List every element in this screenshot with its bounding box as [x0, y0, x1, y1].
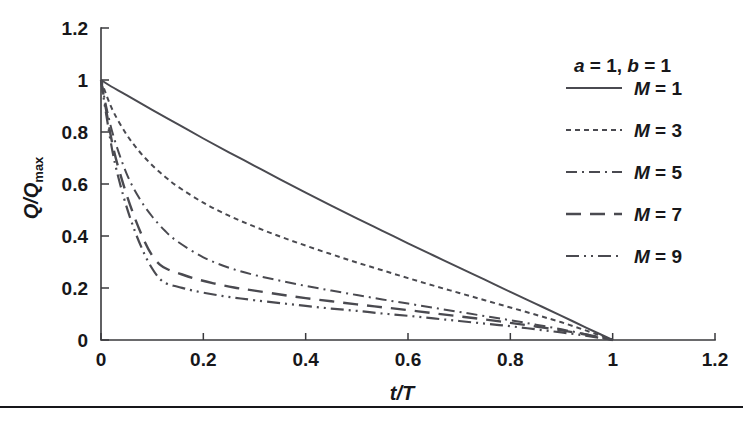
y-axis-title: Q/Qmax [20, 156, 46, 219]
legend-label-m=9: M = 9 [634, 246, 682, 267]
x-tick-label-2: 0.4 [292, 349, 319, 370]
y-tick-label-2: 0.4 [62, 226, 89, 247]
x-tick-label-4: 0.8 [497, 349, 523, 370]
y-tick-label-1: 0.2 [62, 278, 88, 299]
x-tick-label-3: 0.6 [395, 349, 421, 370]
y-axis-title-group: Q/Qmax [20, 156, 46, 219]
chart-canvas: 00.20.40.60.811.2 00.20.40.60.811.2 t/TQ… [0, 0, 743, 422]
series-line-m=7 [101, 80, 613, 340]
series-line-m=1 [101, 80, 613, 340]
y-tick-label-5: 1 [77, 70, 88, 91]
x-tick-label-5: 1 [607, 349, 618, 370]
x-tick-label-0: 0 [96, 349, 107, 370]
y-tick-label-6: 1.2 [62, 18, 88, 39]
x-tick-label-6: 1.2 [702, 349, 728, 370]
series-line-m=9 [101, 80, 613, 340]
series-line-m=3 [101, 80, 613, 340]
y-tick-label-4: 0.8 [62, 122, 88, 143]
figure-container: 00.20.40.60.811.2 00.20.40.60.811.2 t/TQ… [0, 0, 743, 422]
legend-label-m=5: M = 5 [634, 162, 682, 183]
x-tick-labels: 00.20.40.60.811.2 [96, 349, 729, 370]
legend-label-m=1: M = 1 [634, 78, 682, 99]
legend-label-m=3: M = 3 [634, 120, 682, 141]
y-tick-label-0: 0 [77, 330, 88, 351]
x-axis-title: t/T [390, 382, 416, 404]
legend-label-m=7: M = 7 [634, 204, 682, 225]
series-line-m=5 [101, 80, 613, 340]
x-tick-label-1: 0.2 [190, 349, 216, 370]
y-tick-label-3: 0.6 [62, 174, 88, 195]
legend-annotation: a = 1, b = 1 [574, 55, 672, 76]
y-tick-labels: 00.20.40.60.811.2 [62, 18, 89, 351]
legend: a = 1, b = 1M = 1M = 3M = 5M = 7M = 9 [566, 55, 682, 267]
data-series [101, 80, 613, 340]
